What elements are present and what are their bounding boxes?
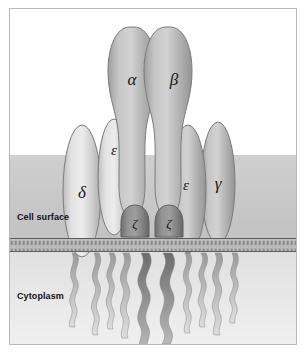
subunit-label-epsilon-right: ε: [183, 177, 189, 193]
figure-frame: δ ε γ ε α: [9, 8, 297, 345]
subunit-label-zeta-right: ζ: [166, 216, 172, 231]
zone-label-cell-surface: Cell surface: [17, 212, 69, 222]
subunit-label-epsilon-left: ε: [111, 142, 117, 158]
figure-root: δ ε γ ε α: [0, 0, 306, 363]
extracellular-band: [10, 155, 296, 238]
subunit-label-beta: β: [169, 70, 179, 89]
subunit-label-zeta-left: ζ: [132, 216, 138, 231]
subunit-zeta-left: ζ: [121, 205, 149, 237]
subunit-label-alpha: α: [128, 70, 138, 89]
zone-label-cytoplasm: Cytoplasm: [17, 291, 64, 301]
subunit-zeta-right: ζ: [155, 205, 183, 237]
subunit-delta: δ: [63, 125, 101, 257]
subunit-label-delta: δ: [78, 183, 87, 202]
lipid-bilayer-membrane: [10, 238, 296, 252]
